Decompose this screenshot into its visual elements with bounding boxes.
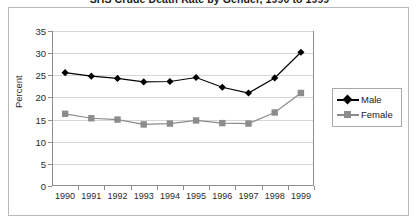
y-tick-label: 15: [12, 114, 46, 125]
legend-item-female: Female: [337, 107, 397, 122]
square-marker-icon: [193, 117, 199, 123]
y-tick-label: 5: [12, 158, 46, 169]
diamond-marker-icon: [219, 84, 226, 91]
y-tick-label: 10: [12, 136, 46, 147]
x-tick-mark: [288, 186, 289, 190]
legend-item-male: Male: [337, 92, 397, 107]
legend-swatch-male: [337, 94, 359, 105]
series-line-male: [65, 52, 301, 93]
x-tick-label: 1990: [55, 191, 75, 201]
x-tick-mark: [131, 186, 132, 190]
diamond-marker-icon: [88, 73, 95, 80]
chart-screenshot: SHS Crude Death Rate by Gender, 1990 to …: [0, 0, 419, 224]
legend-swatch-female: [337, 109, 359, 120]
x-tick-label: 1998: [265, 191, 285, 201]
diamond-marker-icon: [245, 89, 252, 96]
diamond-marker-icon: [166, 78, 173, 85]
legend-label-female: Female: [361, 109, 393, 120]
square-marker-icon: [344, 111, 351, 118]
series-layer: [52, 31, 314, 186]
diamond-marker-icon: [62, 69, 69, 76]
x-tick-mark: [104, 186, 105, 190]
square-marker-icon: [114, 116, 120, 122]
x-tick-label: 1991: [81, 191, 101, 201]
chart-legend: Male Female: [332, 88, 402, 127]
x-tick-label: 1996: [212, 191, 232, 201]
diamond-marker-icon: [114, 75, 121, 82]
square-marker-icon: [167, 120, 173, 126]
x-tick-mark: [209, 186, 210, 190]
x-tick-label: 1997: [238, 191, 258, 201]
y-tick-label: 0: [12, 181, 46, 192]
square-marker-icon: [272, 109, 278, 115]
diamond-marker-icon: [193, 74, 200, 81]
diamond-marker-icon: [343, 95, 353, 105]
square-marker-icon: [62, 111, 68, 117]
x-tick-mark: [157, 186, 158, 190]
y-tick-label: 30: [12, 48, 46, 59]
y-tick-label: 20: [12, 92, 46, 103]
square-marker-icon: [141, 121, 147, 127]
x-tick-label: 1993: [134, 191, 154, 201]
x-tick-label: 1999: [291, 191, 311, 201]
square-marker-icon: [298, 90, 304, 96]
y-tick-label: 25: [12, 70, 46, 81]
square-marker-icon: [245, 120, 251, 126]
chart-title: SHS Crude Death Rate by Gender, 1990 to …: [0, 0, 419, 5]
x-tick-label: 1994: [160, 191, 180, 201]
y-tick-mark: [48, 186, 52, 187]
square-marker-icon: [88, 115, 94, 121]
x-tick-mark: [78, 186, 79, 190]
diamond-marker-icon: [140, 78, 147, 85]
legend-label-male: Male: [361, 94, 382, 105]
x-tick-mark: [235, 186, 236, 190]
series-line-female: [65, 93, 301, 124]
x-tick-label: 1992: [107, 191, 127, 201]
x-tick-mark: [183, 186, 184, 190]
square-marker-icon: [219, 120, 225, 126]
x-tick-mark: [314, 186, 315, 190]
y-tick-label: 35: [12, 26, 46, 37]
x-tick-mark: [262, 186, 263, 190]
x-tick-label: 1995: [186, 191, 206, 201]
